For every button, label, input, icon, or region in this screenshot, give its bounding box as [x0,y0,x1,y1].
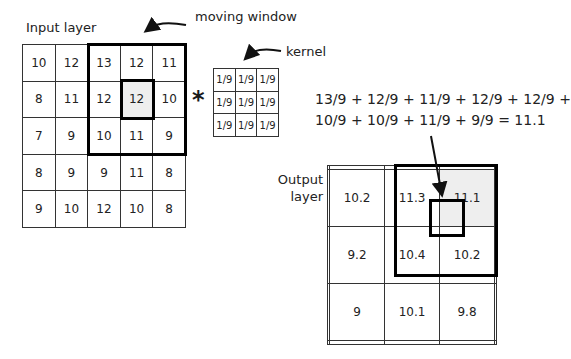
moving-window-arrow-icon [150,23,186,28]
kernel-arrow-icon [249,49,281,55]
result-arrow-icon [431,136,441,190]
